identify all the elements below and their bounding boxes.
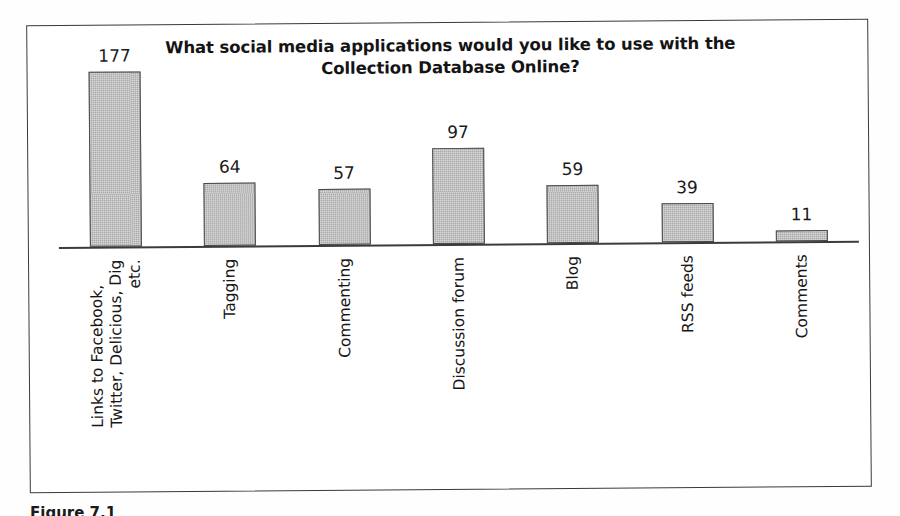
- bar-slot-blog: 59: [514, 22, 630, 244]
- bar-rect[interactable]: [432, 148, 485, 244]
- bar-slot-discussion-forum: 97: [400, 22, 516, 244]
- bar-value-label: 57: [287, 164, 401, 182]
- category-label: Comments: [792, 254, 812, 338]
- label-slot-blog: Blog: [516, 250, 632, 483]
- label-slot-discussion-forum: Discussion forum: [402, 250, 518, 483]
- bar-value-label: 59: [515, 160, 629, 178]
- category-label: Links to Facebook, Twitter, Delicious, D…: [88, 259, 146, 427]
- category-label: Commenting: [335, 258, 355, 358]
- category-axis-labels: Links to Facebook, Twitter, Delicious, D…: [59, 248, 861, 486]
- bar-value-label: 177: [57, 47, 171, 65]
- bar-value-label: 97: [401, 124, 515, 142]
- bar-rect[interactable]: [318, 188, 370, 245]
- category-label-line: Links to Facebook,: [88, 260, 108, 428]
- label-slot-commenting: Commenting: [288, 251, 404, 484]
- category-label-line: Discussion forum: [450, 257, 470, 391]
- category-label-line: RSS feeds: [678, 255, 698, 333]
- bar-value-label: 64: [173, 158, 287, 176]
- bar-rect[interactable]: [89, 71, 142, 246]
- category-label-line: Tagging: [221, 259, 240, 319]
- bar-value-label: 39: [630, 179, 744, 197]
- category-label-line: Commenting: [335, 258, 355, 358]
- category-label: Tagging: [221, 259, 240, 319]
- bar-slot-tagging: 64: [171, 24, 287, 246]
- label-slot-comments: Comments: [745, 248, 861, 481]
- bar-slot-comments: 11: [743, 20, 859, 242]
- bars-row: 177 64 57 97: [57, 20, 859, 247]
- figure-caption: Figure 7.1: [30, 504, 116, 516]
- bar-rect[interactable]: [776, 230, 828, 241]
- bar-slot-rss-feeds: 39: [629, 21, 745, 243]
- category-label-line: Twitter, Delicious, Dig: [107, 260, 127, 428]
- bar-rect[interactable]: [661, 203, 713, 242]
- chart-area: What social media applications would you…: [27, 20, 871, 493]
- bar-slot-commenting: 57: [286, 23, 402, 245]
- label-slot-tagging: Tagging: [173, 252, 289, 485]
- category-label: Discussion forum: [450, 257, 470, 391]
- label-slot-links-to-facebook: Links to Facebook, Twitter, Delicious, D…: [59, 253, 175, 486]
- bar-slot-links-to-facebook: 177: [57, 25, 173, 247]
- category-label-line: Blog: [564, 256, 583, 290]
- plot-band: 177 64 57 97: [27, 20, 869, 251]
- label-slot-rss-feeds: RSS feeds: [630, 249, 746, 482]
- category-label: RSS feeds: [678, 255, 698, 333]
- bar-rect[interactable]: [547, 184, 599, 243]
- bar-value-label: 11: [744, 206, 858, 224]
- figure-frame: What social media applications would you…: [26, 19, 872, 494]
- bar-rect[interactable]: [204, 182, 256, 246]
- category-label: Blog: [564, 256, 583, 290]
- category-label-line: Comments: [792, 254, 812, 338]
- category-label-line: etc.: [126, 259, 146, 427]
